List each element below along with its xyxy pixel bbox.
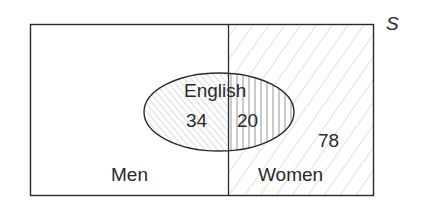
universe-label: S <box>386 13 399 35</box>
men-english-count: 34 <box>186 110 207 132</box>
women-not-english-count: 78 <box>318 130 339 152</box>
men-label: Men <box>111 164 148 186</box>
venn-diagram <box>0 0 422 210</box>
women-english-count: 20 <box>237 110 258 132</box>
english-label: English <box>184 80 246 102</box>
women-label: Women <box>258 164 323 186</box>
